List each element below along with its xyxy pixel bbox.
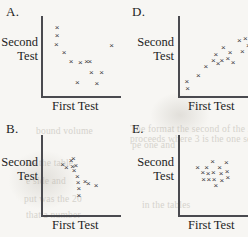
panel-e-x-axis-label: First Test (188, 219, 234, 232)
scatterplot-figure-page: bound volume pe one and as the table e s… (0, 0, 248, 237)
panel-b-y-axis-label: Second Test (0, 156, 38, 183)
panel-d-y-axis-label-line2: Test (124, 50, 174, 64)
panel-b-y-axis-label-line1: Second (0, 156, 38, 170)
panel-e-x-axis-line (178, 215, 248, 217)
panel-b-plot-area (43, 135, 121, 215)
scatter-point (85, 180, 92, 187)
scatter-point (195, 72, 202, 79)
panel-e-plot-area (180, 135, 248, 215)
panel-a-plot-area (43, 16, 121, 96)
panel-a-y-axis-label-line2: Test (0, 50, 38, 64)
panel-e: E. Second Test First Test (124, 118, 248, 237)
panel-a-x-axis-label: First Test (52, 100, 98, 113)
scatter-point (54, 24, 61, 31)
scatter-point (74, 79, 81, 86)
scatter-point (98, 69, 105, 76)
scatter-point (86, 58, 93, 65)
scatter-point (230, 59, 237, 66)
scatter-point (54, 32, 61, 39)
scatter-point (93, 182, 100, 189)
scatter-point (61, 49, 68, 56)
scatter-point (227, 49, 234, 56)
panel-a-x-axis-line (41, 96, 121, 98)
scatter-point (245, 42, 248, 49)
scatter-point (184, 85, 191, 92)
panel-b-axes (41, 135, 121, 217)
panel-b: B. Second Test First Test (0, 118, 124, 237)
panel-a-letter: A. (6, 5, 19, 18)
panel-b-letter: B. (6, 122, 19, 135)
panel-e-axes (178, 135, 248, 217)
panel-d-y-axis-label-line1: Second (124, 36, 174, 50)
scatter-point (202, 63, 209, 70)
panel-e-y-axis-label-line1: Second (124, 156, 174, 170)
panel-d-plot-area (180, 16, 248, 96)
panel-d-y-axis-label: Second Test (124, 36, 174, 63)
panel-a-y-axis-label: Second Test (0, 36, 38, 63)
scatter-point (68, 58, 75, 65)
panel-d-letter: D. (132, 5, 145, 18)
scatter-point (75, 192, 82, 199)
scatter-point (88, 69, 95, 76)
panel-d-x-axis-label: First Test (188, 100, 234, 113)
panel-e-letter: E. (132, 122, 144, 135)
scatter-point (72, 162, 79, 169)
panel-d-x-axis-line (178, 96, 248, 98)
panel-d: D. Second Test First Test (124, 0, 248, 118)
panel-b-x-axis-label: First Test (52, 219, 98, 232)
scatter-point (223, 159, 230, 166)
panel-b-y-axis-label-line2: Test (0, 170, 38, 184)
panel-e-y-axis-label: Second Test (124, 156, 174, 183)
scatter-point (224, 174, 231, 181)
panel-a: A. Second Test First Test (0, 0, 124, 118)
scatter-point (53, 41, 60, 48)
panel-b-x-axis-line (41, 215, 121, 217)
panel-d-axes (178, 16, 248, 98)
panel-a-y-axis-label-line1: Second (0, 36, 38, 50)
scatter-point (108, 42, 115, 49)
panel-a-axes (41, 16, 121, 98)
scatter-point (93, 80, 100, 87)
panel-e-y-axis-label-line2: Test (124, 170, 174, 184)
